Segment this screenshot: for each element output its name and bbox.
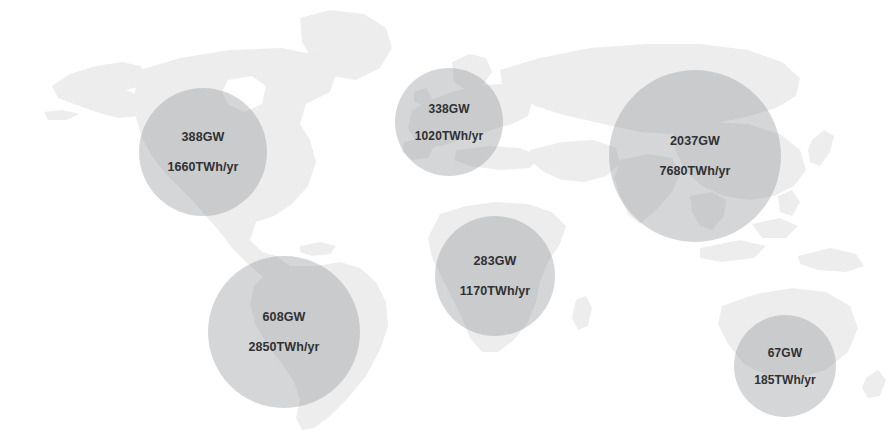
bubble-capacity-label: 338GW — [428, 103, 469, 115]
bubble-asia[interactable]: 2037GW 7680TWh/yr — [609, 70, 781, 242]
bubble-oceania[interactable]: 67GW 185TWh/yr — [734, 315, 836, 417]
bubble-generation-label: 185TWh/yr — [754, 374, 816, 386]
bubble-capacity-label: 388GW — [182, 131, 225, 144]
bubble-generation-label: 1170TWh/yr — [460, 285, 530, 298]
bubble-generation-label: 1660TWh/yr — [167, 161, 238, 174]
bubble-capacity-label: 67GW — [768, 347, 802, 359]
bubble-capacity-label: 608GW — [263, 311, 306, 324]
bubble-north-america[interactable]: 388GW 1660TWh/yr — [139, 88, 267, 216]
world-bubble-map-figure: 388GW 1660TWh/yr 338GW 1020TWh/yr 2037GW… — [0, 0, 894, 437]
bubble-africa[interactable]: 283GW 1170TWh/yr — [435, 216, 555, 336]
bubble-europe[interactable]: 338GW 1020TWh/yr — [395, 68, 503, 176]
bubble-south-america[interactable]: 608GW 2850TWh/yr — [208, 256, 360, 408]
bubble-generation-label: 7680TWh/yr — [659, 165, 730, 178]
bubble-overlay-layer: 388GW 1660TWh/yr 338GW 1020TWh/yr 2037GW… — [0, 0, 894, 437]
bubble-generation-label: 2850TWh/yr — [248, 341, 319, 354]
bubble-capacity-label: 283GW — [474, 255, 517, 268]
bubble-capacity-label: 2037GW — [670, 135, 720, 148]
bubble-generation-label: 1020TWh/yr — [415, 130, 483, 142]
